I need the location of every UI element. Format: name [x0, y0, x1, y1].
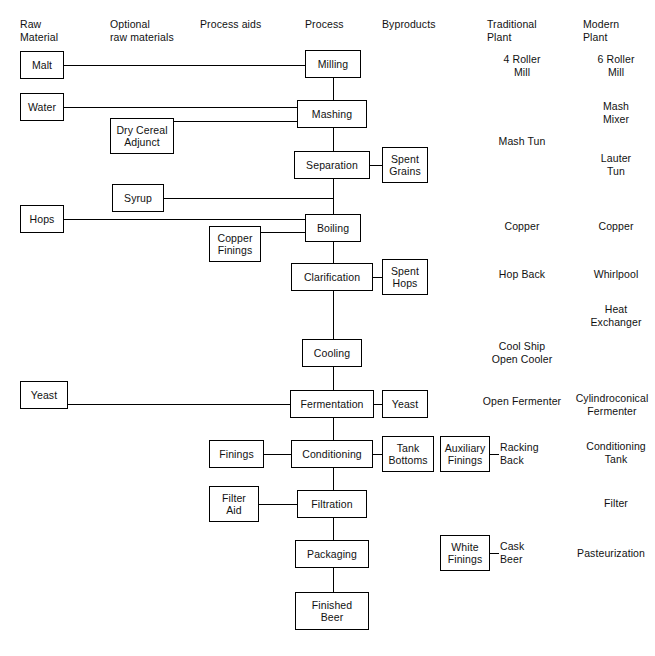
modern-plant-filter: Filter	[583, 497, 649, 510]
column-header-raw-material: Raw Material	[20, 18, 58, 43]
connector-syrup-boiling	[164, 198, 333, 199]
connector-conditioning-tank-bottoms	[373, 454, 382, 455]
connector-packaging-finished-beer	[333, 568, 334, 592]
connector-water-mashing	[64, 107, 297, 108]
connector-copper-finings-boiling	[261, 232, 305, 233]
byproduct-box-spent-hops[interactable]: Spent Hops	[382, 259, 428, 295]
modern-plant-mash-mixer: Mash Mixer	[583, 100, 649, 125]
connector-milling-mashing	[333, 78, 334, 100]
label-racking-back: Racking Back	[500, 441, 539, 466]
process-box-clarification[interactable]: Clarification	[291, 263, 373, 291]
modern-plant-6-roller-mill: 6 Roller Mill	[583, 53, 649, 78]
process-box-boiling[interactable]: Boiling	[305, 214, 361, 242]
optional-raw-box-syrup[interactable]: Syrup	[112, 184, 164, 212]
connector-finings-conditioning	[264, 454, 291, 455]
finings-box-auxiliary-finings[interactable]: Auxiliary Finings	[440, 436, 490, 472]
connector-filtration-packaging	[333, 518, 334, 540]
byproduct-box-yeast[interactable]: Yeast	[382, 390, 428, 418]
connector-yeast-fermentation	[68, 404, 290, 405]
connector-fermentation-conditioning	[333, 418, 334, 440]
raw-material-box-malt[interactable]: Malt	[20, 51, 64, 79]
brewing-process-diagram: Raw Material Optional raw materials Proc…	[0, 0, 655, 656]
modern-plant-cylindroconical-fermenter: Cylindroconical Fermenter	[568, 392, 655, 417]
column-header-traditional-plant: Traditional Plant	[487, 18, 537, 43]
connector-white-finings-cask-beer	[490, 553, 499, 554]
process-box-cooling[interactable]: Cooling	[302, 339, 362, 367]
process-box-fermentation[interactable]: Fermentation	[290, 390, 374, 418]
connector-clarification-cooling	[333, 291, 334, 339]
connector-separation-spent-grains	[370, 165, 382, 166]
modern-plant-copper: Copper	[583, 220, 649, 233]
column-header-optional-raw-materials: Optional raw materials	[110, 18, 174, 43]
traditional-plant-copper: Copper	[487, 220, 557, 233]
modern-plant-whirlpool: Whirlpool	[583, 268, 649, 281]
modern-plant-lauter-tun: Lauter Tun	[583, 152, 649, 177]
connector-filter-aid-filtration	[259, 504, 297, 505]
modern-plant-conditioning-tank: Conditioning Tank	[578, 440, 654, 465]
optional-raw-box-dry-cereal-adjunct[interactable]: Dry Cereal Adjunct	[110, 118, 174, 154]
raw-material-box-hops[interactable]: Hops	[20, 205, 64, 233]
process-box-milling[interactable]: Milling	[305, 50, 361, 78]
process-box-packaging[interactable]: Packaging	[295, 540, 369, 568]
traditional-plant-cool-ship-open-cooler: Cool Ship Open Cooler	[487, 340, 557, 365]
connector-malt-milling	[64, 65, 305, 66]
process-aid-box-finings[interactable]: Finings	[209, 440, 264, 468]
traditional-plant-open-fermenter: Open Fermenter	[470, 395, 574, 408]
connector-fermentation-yeast-byproduct	[374, 404, 382, 405]
label-cask-beer: Cask Beer	[500, 540, 524, 565]
raw-material-box-water[interactable]: Water	[20, 93, 64, 121]
column-header-process: Process	[305, 18, 344, 31]
column-header-modern-plant: Modern Plant	[583, 18, 619, 43]
connector-hops-boiling	[64, 219, 305, 220]
finings-box-white-finings[interactable]: White Finings	[440, 535, 490, 571]
modern-plant-heat-exchanger: Heat Exchanger	[578, 303, 654, 328]
byproduct-box-tank-bottoms[interactable]: Tank Bottoms	[382, 436, 434, 472]
connector-conditioning-filtration	[333, 468, 334, 490]
column-header-process-aids: Process aids	[200, 18, 261, 31]
connector-cooling-fermentation	[333, 367, 334, 390]
process-box-mashing[interactable]: Mashing	[297, 100, 367, 128]
byproduct-box-spent-grains[interactable]: Spent Grains	[382, 147, 428, 183]
traditional-plant-4-roller-mill: 4 Roller Mill	[487, 53, 557, 78]
connector-boiling-clarification	[333, 242, 334, 263]
modern-plant-pasteurization: Pasteurization	[566, 547, 655, 560]
traditional-plant-hop-back: Hop Back	[487, 268, 557, 281]
process-aid-box-copper-finings[interactable]: Copper Finings	[209, 226, 261, 262]
column-header-byproducts: Byproducts	[382, 18, 436, 31]
process-box-finished-beer[interactable]: Finished Beer	[295, 592, 369, 630]
traditional-plant-mash-tun: Mash Tun	[487, 135, 557, 148]
process-box-separation[interactable]: Separation	[294, 151, 370, 179]
process-aid-box-filter-aid[interactable]: Filter Aid	[209, 486, 259, 522]
connector-mashing-separation	[333, 128, 334, 151]
connector-clarification-spent-hops	[373, 277, 382, 278]
connector-adjunct-mashing	[174, 121, 297, 122]
connector-auxiliary-finings-racking-back	[490, 454, 499, 455]
process-box-filtration[interactable]: Filtration	[297, 490, 367, 518]
connector-separation-boiling	[333, 179, 334, 214]
process-box-conditioning[interactable]: Conditioning	[291, 440, 373, 468]
raw-material-box-yeast[interactable]: Yeast	[20, 381, 68, 409]
